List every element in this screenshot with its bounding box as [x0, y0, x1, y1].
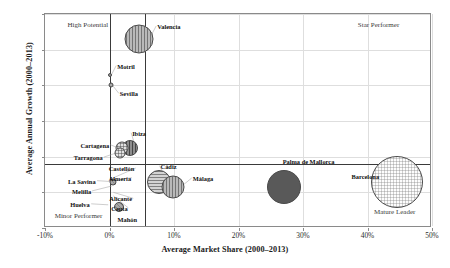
x-tick-mark: [174, 228, 175, 231]
point-label-huelva: Huelva: [70, 201, 90, 208]
point-label-la-savina: La Savina: [68, 178, 96, 185]
point-label-cartagena: Cartagena: [80, 142, 109, 149]
point-label-c-diz: Cádiz: [161, 163, 177, 170]
y-axis-title: Average Annual Growth (2000–2013): [25, 19, 34, 199]
point-label-m-laga: Málaga: [193, 175, 214, 182]
x-tick-mark: [368, 228, 369, 231]
quadrant-note: Minor Performer: [55, 212, 103, 220]
point-label-melilla: Melilla: [72, 188, 91, 195]
gridline-horizontal: [45, 85, 430, 86]
quadrant-note: High Potential: [68, 21, 109, 29]
y-tick-mark: [42, 14, 45, 15]
x-tick-mark: [110, 228, 111, 231]
bubble-chart-figure: Average Annual Growth (2000–2013) Averag…: [0, 0, 450, 268]
x-tick-label: 50%: [412, 231, 450, 240]
bubble-tarragona: [114, 148, 125, 159]
point-label-alicante: Alicante: [109, 195, 132, 202]
y-tick-mark: [42, 121, 45, 122]
y-tick-mark: [42, 192, 45, 193]
point-label-ceuta: Ceuta: [111, 205, 127, 212]
quadrant-note: Star Performer: [358, 21, 399, 29]
gridline-horizontal: [45, 14, 430, 15]
x-tick-label: 10%: [154, 231, 194, 240]
x-tick-label: 30%: [283, 231, 323, 240]
point-label-palma-de-mallorca: Palma de Mallorca: [283, 158, 335, 165]
bubble-valencia: [125, 24, 154, 53]
reference-line-horizontal: [45, 164, 430, 165]
gridline-horizontal: [45, 50, 430, 51]
bubble-barcelona: [371, 156, 423, 208]
point-label-barcelona: Barcelona: [352, 173, 380, 180]
y-tick-mark: [42, 50, 45, 51]
point-label-castell-n: Castellón: [109, 165, 135, 172]
x-tick-label: -10%: [25, 231, 65, 240]
x-tick-label: 20%: [219, 231, 259, 240]
gridline-horizontal: [45, 121, 430, 122]
x-tick-label: 40%: [348, 231, 388, 240]
x-tick-mark: [432, 228, 433, 231]
point-label-ibiza: Ibiza: [132, 130, 146, 137]
y-tick-mark: [42, 85, 45, 86]
bubble-m-laga: [161, 175, 184, 198]
x-tick-mark: [45, 228, 46, 231]
point-label-mah-n: Mahón: [118, 216, 138, 223]
x-axis-title: Average Market Share (2000–2013): [0, 245, 450, 254]
bubble-sevilla: [108, 83, 113, 88]
reference-line-vertical: [110, 14, 111, 226]
gridline-vertical: [368, 14, 369, 226]
point-label-motril: Motril: [117, 63, 135, 70]
quadrant-note: Mature Leader: [374, 208, 415, 216]
point-label-valencia: Valencia: [157, 23, 180, 30]
gridline-vertical: [303, 14, 304, 226]
bubble-palma-de-mallorca: [267, 170, 301, 204]
point-label-tarragona: Tarragona: [74, 154, 103, 161]
plot-area: 0%10%20%30%40%50%60%-10%0%10%20%30%40%50…: [44, 13, 431, 227]
gridline-vertical: [239, 14, 240, 226]
y-tick-mark: [42, 157, 45, 158]
x-tick-mark: [303, 228, 304, 231]
gridline-vertical: [432, 14, 433, 226]
x-tick-label: 0%: [90, 231, 130, 240]
bubble-motril: [108, 73, 112, 77]
x-tick-mark: [239, 228, 240, 231]
point-label-almer-a: Almería: [109, 175, 131, 182]
point-label-sevilla: Sevilla: [120, 90, 138, 97]
